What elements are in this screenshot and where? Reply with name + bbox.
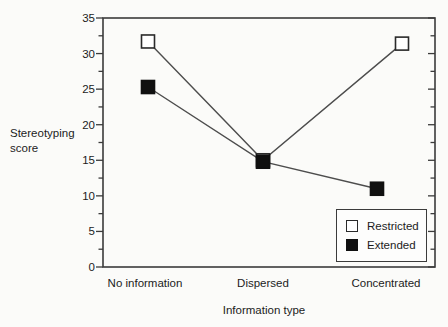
legend-item-restricted: Restricted bbox=[346, 220, 426, 232]
filled-square-marker bbox=[371, 182, 384, 195]
series-markers-restricted bbox=[142, 35, 409, 167]
filled-square-marker bbox=[142, 81, 155, 94]
series-line-restricted bbox=[148, 41, 402, 160]
legend-item-extended: Extended bbox=[346, 239, 426, 251]
open-square-marker bbox=[396, 37, 409, 50]
y-tick-label-0: 0 bbox=[55, 261, 95, 273]
legend-label-extended: Extended bbox=[367, 239, 416, 251]
filled-square-marker bbox=[257, 155, 270, 168]
y-tick-label-10: 10 bbox=[55, 190, 95, 202]
series-markers-extended bbox=[142, 81, 384, 196]
y-tick-label-25: 25 bbox=[55, 83, 95, 95]
y-tick-label-30: 30 bbox=[55, 48, 95, 60]
y-tick-label-35: 35 bbox=[55, 12, 95, 24]
series-line-extended bbox=[148, 87, 377, 189]
y-tick-label-15: 15 bbox=[55, 154, 95, 166]
legend-label-restricted: Restricted bbox=[367, 220, 419, 232]
x-category-dispersed: Dispersed bbox=[203, 277, 323, 290]
legend-box: Restricted Extended bbox=[336, 209, 427, 262]
filled-square-icon bbox=[346, 239, 358, 251]
y-tick-label-5: 5 bbox=[55, 225, 95, 237]
open-square-icon bbox=[346, 220, 358, 232]
x-category-concentrated: Concentrated bbox=[326, 277, 446, 290]
open-square-marker bbox=[142, 35, 155, 48]
y-tick-label-20: 20 bbox=[55, 119, 95, 131]
x-category-no-information: No information bbox=[85, 277, 205, 290]
line-chart-figure: Stereotyping score 35 30 25 20 15 10 5 0… bbox=[0, 0, 448, 327]
x-axis-title: Information type bbox=[194, 304, 334, 316]
